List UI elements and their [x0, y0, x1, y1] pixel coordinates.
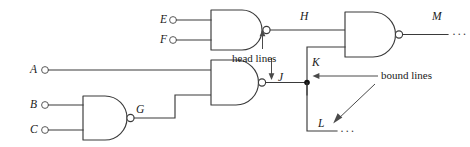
gate-ag-body: [211, 60, 259, 105]
bound-lines-arrow-l: [333, 84, 375, 124]
label-input-e: E: [160, 14, 167, 26]
label-signal-l: L: [318, 118, 324, 130]
label-signal-h: H: [300, 11, 308, 23]
gate-ef-body: [211, 10, 262, 50]
input-terminal-b: [42, 102, 49, 109]
annotation-bound-lines: bound lines: [381, 70, 432, 81]
label-signal-m: M: [432, 11, 442, 23]
label-input-a: A: [30, 64, 37, 76]
gate-m-group: [345, 12, 403, 57]
gate-bc-body: [83, 96, 127, 140]
label-signal-k: K: [312, 57, 320, 69]
label-input-f: F: [160, 34, 167, 46]
gate-ef-group: [211, 10, 270, 50]
bound-lines-arrow-k: [313, 73, 379, 79]
gate-m-body: [345, 12, 396, 57]
gate-m-output-bubble: [395, 31, 402, 38]
wire-g: [134, 95, 211, 118]
gate-ef-output-bubble: [263, 26, 270, 33]
gate-bc-group: [83, 96, 134, 140]
label-input-b: B: [30, 99, 37, 111]
gate-ag-group: [211, 60, 266, 105]
input-terminal-e: [170, 17, 177, 24]
gate-ag-output-bubble: [258, 79, 265, 86]
bound-arrow-l-shaft: [337, 84, 375, 120]
annotation-head-lines: head lines: [232, 53, 276, 64]
circuit-diagram: E F A B C H M G J K L head lines bound l…: [0, 0, 470, 147]
label-signal-g: G: [136, 104, 144, 116]
label-input-c: C: [30, 124, 38, 136]
label-signal-j: J: [278, 72, 283, 84]
gate-bc-output-bubble: [127, 114, 134, 121]
head-arrow-down-head: [269, 73, 275, 80]
bound-arrow-k-head: [313, 73, 320, 79]
ellipsis-m-output: ···: [452, 28, 468, 40]
input-terminal-f: [170, 37, 177, 44]
ellipsis-l-output: ···: [340, 125, 356, 137]
input-terminal-a: [42, 67, 49, 74]
input-terminal-c: [42, 127, 49, 134]
bound-arrow-l-head: [333, 113, 342, 123]
wire-k: [307, 47, 345, 95]
